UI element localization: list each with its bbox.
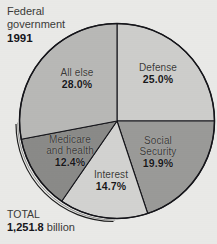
chart-title-year: 1991 (7, 31, 65, 45)
slice-label-medicare-and-health: Medicare and health 12.4% (32, 135, 108, 168)
slice-pct-all-else: 28.0% (41, 79, 113, 90)
slice-name-medicare-line2: and health (32, 146, 108, 157)
slice-pct-social-security: 19.9% (126, 158, 190, 169)
total-value: 1,251.8 (7, 221, 44, 233)
slice-pct-interest: 14.7% (80, 181, 142, 192)
chart-title: Federal government 1991 (7, 5, 65, 45)
chart-title-line2: government (7, 18, 65, 31)
slice-label-defense: Defense 25.0% (119, 63, 197, 85)
slice-label-social-security: Social Security 19.9% (126, 136, 190, 169)
slice-label-interest: Interest 14.7% (80, 170, 142, 192)
slice-label-all-else: All else 28.0% (41, 68, 113, 90)
slice-name-social-security-line2: Security (126, 147, 190, 158)
slice-pct-medicare: 12.4% (32, 157, 108, 168)
total-label: TOTAL (7, 208, 75, 221)
total-value-row: 1,251.8 billion (7, 221, 75, 235)
chart-total: TOTAL 1,251.8 billion (7, 208, 75, 235)
total-unit: billion (44, 221, 75, 233)
chart-title-line1: Federal (7, 5, 65, 18)
pie-chart-figure: Defense 25.0% Social Security 19.9% Inte… (0, 0, 217, 244)
slice-pct-defense: 25.0% (119, 74, 197, 85)
